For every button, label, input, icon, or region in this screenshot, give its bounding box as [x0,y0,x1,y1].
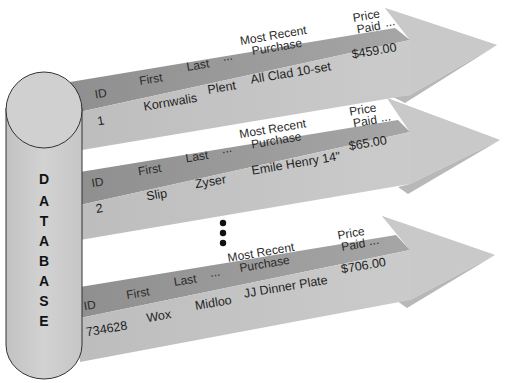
database-cylinder: D A T A B A S E [6,72,82,379]
svg-text:S: S [39,293,48,309]
record-arrow-3: ID First Last ... Most Recent Purchase P… [78,216,495,362]
col-ellipsis: ... [221,49,233,64]
svg-text:T: T [40,213,49,229]
svg-text:A: A [39,273,49,289]
svg-text:A: A [39,233,49,249]
svg-text:A: A [39,193,49,209]
more-records-ellipsis-icon [220,220,226,246]
svg-text:E: E [39,313,48,329]
svg-text:B: B [39,253,49,269]
col-more-ellipsis: ... [368,233,380,248]
database-records-diagram: ID First Last ... Most Recent Purchase P… [0,0,508,383]
svg-text:D: D [39,171,49,187]
col-ellipsis: ... [221,141,233,156]
cylinder-top [6,72,82,148]
col-more-ellipsis: ... [380,109,392,124]
